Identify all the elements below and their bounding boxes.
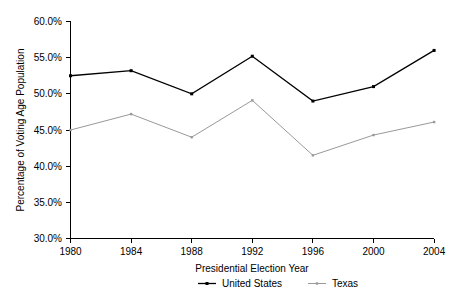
data-point [191,136,193,138]
y-tick-label-30: 30.0% [34,233,62,244]
legend-marker-swatch [316,282,318,284]
y-tick-label-35: 35.0% [34,197,62,208]
y-tick-label-45: 45.0% [34,125,62,136]
data-point [372,134,374,136]
x-tick-label-1992: 1992 [241,246,264,257]
y-tick-label-55: 55.0% [34,52,62,63]
data-point [130,113,132,115]
x-tick-label-1996: 1996 [302,246,325,257]
data-point [69,129,71,131]
y-tick-label-40: 40.0% [34,161,62,172]
x-tick-label-2000: 2000 [362,246,385,257]
data-point [372,85,375,88]
data-point [251,99,253,101]
legend-label: Texas [332,278,358,289]
y-tick-label-50: 50.0% [34,88,62,99]
data-point [69,74,72,77]
data-point [130,69,133,72]
x-tick-label-1984: 1984 [120,246,143,257]
line-chart: 60.0% 55.0% 50.0% 45.0% 40.0% 35.0% 30.0… [0,0,451,299]
data-point [433,121,435,123]
y-tick-label-60: 60.0% [34,16,62,27]
data-point [312,154,314,156]
x-tick-label-1988: 1988 [181,246,204,257]
data-point [433,49,436,52]
y-axis-title: Percentage of Voting Age Population [15,49,26,212]
chart-legend: United StatesTexas [198,278,358,289]
x-axis-title: Presidential Election Year [195,263,309,274]
x-tick-label-1980: 1980 [59,246,82,257]
data-point [311,100,314,103]
legend-label: United States [222,278,282,289]
chart-container: 60.0% 55.0% 50.0% 45.0% 40.0% 35.0% 30.0… [0,0,451,299]
data-point [190,92,193,95]
data-point [251,55,254,58]
x-tick-label-2004: 2004 [423,246,446,257]
legend-marker-swatch [206,282,209,285]
